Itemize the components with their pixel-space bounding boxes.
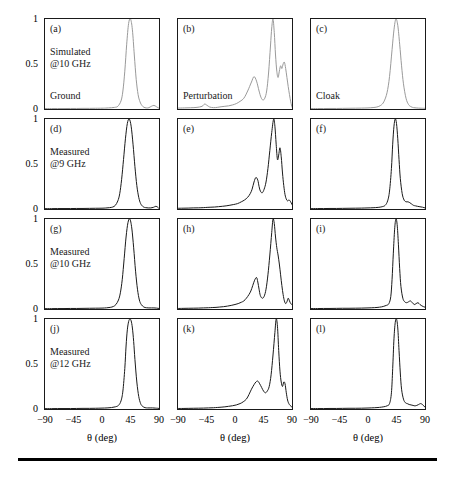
x-tick-c0-1: −45 bbox=[58, 415, 90, 425]
x-tick-c0-0: −90 bbox=[29, 415, 61, 425]
x-tick-c1-0: −90 bbox=[162, 415, 194, 425]
x-tick-c1-3: 45 bbox=[248, 415, 280, 425]
x-axis-title-c2: θ (deg) bbox=[310, 433, 426, 444]
x-tick-c2-4: 90 bbox=[409, 415, 441, 425]
plot-panel-d[interactable] bbox=[44, 118, 160, 210]
x-tick-c1-1: −45 bbox=[191, 415, 223, 425]
data-curve bbox=[45, 19, 159, 109]
y-tick-r0-2: 1 bbox=[10, 14, 38, 24]
x-tick-c0-2: 0 bbox=[86, 415, 118, 425]
data-curve bbox=[311, 319, 425, 409]
plot-grid: (a)Simulated@10 GHzGround(b)Perturbation… bbox=[0, 0, 455, 477]
data-curve bbox=[178, 19, 292, 108]
data-curve bbox=[45, 319, 159, 409]
curve-plot-e bbox=[178, 119, 292, 209]
x-axis-title-c1: θ (deg) bbox=[177, 433, 293, 444]
data-curve bbox=[45, 119, 159, 209]
x-tick-c2-3: 45 bbox=[381, 415, 413, 425]
curve-plot-c bbox=[311, 19, 425, 109]
x-axis-title-c0: θ (deg) bbox=[44, 433, 160, 444]
plot-panel-h[interactable] bbox=[177, 218, 293, 310]
x-tick-c2-1: −45 bbox=[324, 415, 356, 425]
figure-container: (a)Simulated@10 GHzGround(b)Perturbation… bbox=[0, 0, 455, 477]
curve-plot-k bbox=[178, 319, 292, 409]
curve-plot-g bbox=[45, 219, 159, 309]
curve-plot-i bbox=[311, 219, 425, 309]
curve-plot-f bbox=[311, 119, 425, 209]
y-tick-r1-2: 1 bbox=[10, 114, 38, 124]
x-tick-c2-2: 0 bbox=[352, 415, 384, 425]
horizontal-rule bbox=[18, 458, 437, 461]
y-tick-r0-1: 0.5 bbox=[10, 59, 38, 69]
plot-panel-f[interactable] bbox=[310, 118, 426, 210]
data-curve bbox=[311, 219, 425, 309]
curve-plot-d bbox=[45, 119, 159, 209]
curve-plot-l bbox=[311, 319, 425, 409]
plot-panel-b[interactable] bbox=[177, 18, 293, 110]
data-curve bbox=[311, 119, 425, 209]
data-curve bbox=[178, 219, 292, 308]
curve-plot-a bbox=[45, 19, 159, 109]
data-curve bbox=[311, 19, 425, 109]
curve-plot-j bbox=[45, 319, 159, 409]
data-curve bbox=[178, 119, 292, 208]
data-curve bbox=[178, 319, 292, 408]
y-tick-r3-0: 0 bbox=[10, 404, 38, 414]
x-tick-c0-3: 45 bbox=[115, 415, 147, 425]
plot-panel-g[interactable] bbox=[44, 218, 160, 310]
plot-panel-k[interactable] bbox=[177, 318, 293, 410]
x-tick-c2-0: −90 bbox=[295, 415, 327, 425]
plot-panel-c[interactable] bbox=[310, 18, 426, 110]
plot-panel-j[interactable] bbox=[44, 318, 160, 410]
plot-panel-e[interactable] bbox=[177, 118, 293, 210]
plot-panel-i[interactable] bbox=[310, 218, 426, 310]
x-tick-c1-2: 0 bbox=[219, 415, 251, 425]
y-tick-r1-1: 0.5 bbox=[10, 159, 38, 169]
y-tick-r2-2: 1 bbox=[10, 214, 38, 224]
plot-panel-a[interactable] bbox=[44, 18, 160, 110]
y-tick-r3-1: 0.5 bbox=[10, 359, 38, 369]
plot-panel-l[interactable] bbox=[310, 318, 426, 410]
curve-plot-h bbox=[178, 219, 292, 309]
curve-plot-b bbox=[178, 19, 292, 109]
y-tick-r3-2: 1 bbox=[10, 314, 38, 324]
y-tick-r2-1: 0.5 bbox=[10, 259, 38, 269]
data-curve bbox=[45, 219, 159, 309]
